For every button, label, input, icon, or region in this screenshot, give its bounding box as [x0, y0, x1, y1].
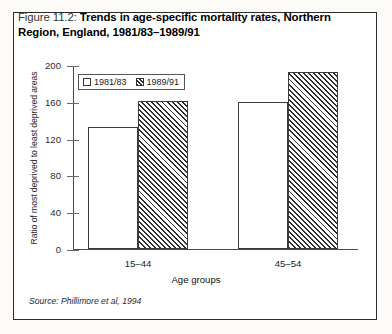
y-tick-80: [67, 176, 79, 177]
chart-legend: 1981/83 1989/91: [78, 74, 185, 90]
bar-45-54-1981-83: [238, 102, 288, 249]
x-axis-title: Age groups: [0, 274, 392, 285]
figure-caption: Figure 11.2: Trends in age-specific mort…: [18, 10, 348, 40]
y-tick-200: [67, 66, 79, 67]
bar-15-44-1989-91: [138, 101, 188, 249]
bar-45-54-1989-91: [288, 72, 338, 249]
legend-item-1: 1989/91: [136, 77, 180, 87]
y-tick-160: [67, 103, 79, 104]
y-tick-0: [67, 250, 79, 251]
y-tick-label-160: 160: [21, 97, 61, 108]
legend-label-0: 1981/83: [94, 77, 127, 87]
legend-swatch-hatch-icon: [136, 78, 144, 86]
y-tick-label-40: 40: [21, 207, 61, 218]
legend-item-0: 1981/83: [83, 77, 127, 87]
y-tick-label-80: 80: [21, 170, 61, 181]
legend-label-1: 1989/91: [147, 77, 180, 87]
x-category-label-0: 15–44: [125, 258, 152, 269]
x-category-label-1: 45–54: [275, 258, 302, 269]
legend-swatch-plain-icon: [83, 78, 91, 86]
bar-15-44-1981-83: [88, 127, 138, 248]
plot-area: 04080120160200: [73, 66, 358, 250]
y-tick-label-200: 200: [21, 60, 61, 71]
y-tick-label-120: 120: [21, 134, 61, 145]
figure-label: Figure 11.2:: [18, 11, 77, 23]
y-axis-line: [73, 66, 74, 250]
y-axis-title: Ratio of most deprived to least deprived…: [26, 66, 40, 250]
y-tick-40: [67, 213, 79, 214]
y-tick-label-0: 0: [21, 244, 61, 255]
y-tick-120: [67, 140, 79, 141]
source-note: Source: Phillimore et al, 1994: [29, 296, 141, 306]
x-axis-line: [73, 249, 358, 250]
